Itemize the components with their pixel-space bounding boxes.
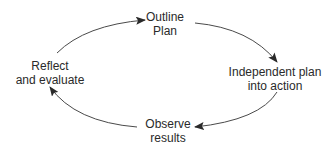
node-implement-line1: Independent plan: [229, 65, 322, 79]
arrow-reflect-to-outline: [57, 20, 145, 53]
node-observe-line2: results: [145, 131, 190, 145]
node-reflect-line2: and evaluate: [16, 73, 85, 87]
node-implement-plan: Independent plan into action: [229, 65, 322, 93]
arrow-observe-to-reflect: [50, 87, 137, 127]
node-outline-plan: Outline Plan: [146, 10, 184, 38]
node-observe-line1: Observe: [145, 117, 190, 131]
node-reflect-evaluate: Reflect and evaluate: [16, 59, 85, 87]
node-observe-results: Observe results: [145, 117, 190, 145]
arrow-implement-to-observe: [195, 92, 277, 127]
node-outline-line1: Outline: [146, 10, 184, 24]
node-implement-line2: into action: [229, 79, 322, 93]
node-outline-line2: Plan: [146, 24, 184, 38]
arrow-outline-to-implement: [195, 23, 277, 62]
node-reflect-line1: Reflect: [16, 59, 85, 73]
